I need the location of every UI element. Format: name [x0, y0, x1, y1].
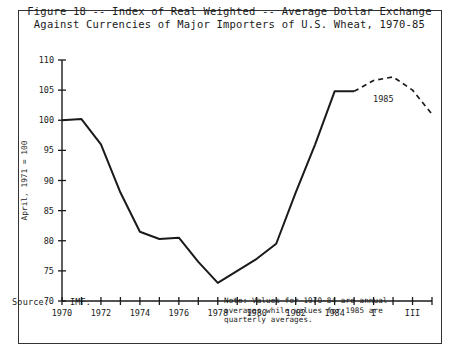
data-series-line: [62, 91, 354, 283]
x-tick-label: 1972: [91, 308, 111, 318]
y-tick-label: 105: [39, 85, 54, 95]
y-axis: 707580859095100105110: [39, 55, 66, 306]
y-tick-label: 80: [44, 236, 54, 246]
note-block: Note: Values for 1970-84 are annual aver…: [224, 296, 388, 325]
annotation-group: 1985: [373, 94, 393, 104]
x-tick-label: 1970: [52, 308, 72, 318]
data-series-group: [62, 77, 432, 283]
x-tick-label: 1976: [169, 308, 189, 318]
note-line-2: averages while values for 1985 are: [224, 306, 388, 316]
source-value: IMF.: [70, 297, 91, 307]
note-line-3: quarterly averages.: [224, 315, 388, 325]
x-tick-label: 1974: [130, 308, 150, 318]
y-axis-title: April, 1971 = 100: [20, 140, 29, 220]
y-tick-label: 85: [44, 206, 54, 216]
x-tick-label: III: [405, 308, 420, 318]
y-tick-label: 95: [44, 145, 54, 155]
y-axis-title-text: April, 1971 = 100: [20, 140, 29, 220]
y-tick-label: 110: [39, 55, 54, 65]
source-label: Source:: [12, 297, 49, 307]
y-tick-label: 75: [44, 266, 54, 276]
source-row: Source: IMF.: [12, 297, 91, 307]
note-line-1: Note: Values for 1970-84 are annual: [224, 296, 388, 306]
y-tick-label: 100: [39, 115, 54, 125]
series-annotation: 1985: [373, 94, 393, 104]
y-tick-label: 90: [44, 176, 54, 186]
